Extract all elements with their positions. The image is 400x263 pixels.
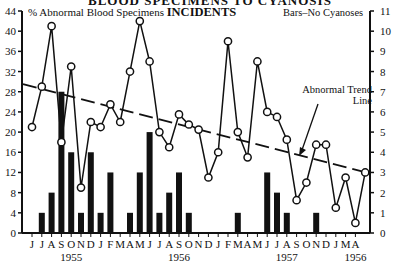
- data-point-marker: [185, 121, 192, 128]
- data-point-marker: [273, 113, 280, 120]
- data-point-marker: [293, 197, 300, 204]
- x-tick-label: S: [176, 238, 182, 250]
- right-tick-label: 3: [380, 166, 386, 178]
- data-point-marker: [332, 204, 339, 211]
- x-tick-label: N: [77, 238, 85, 250]
- x-tick-label: S: [58, 238, 64, 250]
- x-tick-label: D: [322, 238, 330, 250]
- data-point-marker: [303, 179, 310, 186]
- data-point-marker: [87, 118, 94, 125]
- x-tick-label: D: [87, 238, 95, 250]
- x-tick-label: A: [165, 238, 173, 250]
- left-tick-label: 36: [5, 45, 17, 57]
- left-tick-label: 8: [11, 187, 17, 199]
- data-point-marker: [136, 17, 143, 24]
- data-point-marker: [38, 83, 45, 90]
- right-tick-label: 5: [380, 126, 386, 138]
- x-tick-label: A: [283, 238, 291, 250]
- x-tick-label: O: [302, 238, 310, 250]
- left-tick-label: 40: [5, 25, 17, 37]
- x-tick-label: N: [195, 238, 203, 250]
- x-tick-label: S: [294, 238, 300, 250]
- data-point-marker: [97, 123, 104, 130]
- data-point-marker: [254, 58, 261, 65]
- x-tick-label: M: [135, 238, 145, 250]
- x-tick-label: J: [98, 238, 103, 250]
- year-label: 1955: [60, 251, 83, 263]
- x-tick-label: J: [157, 238, 162, 250]
- right-tick-label: 2: [380, 187, 386, 199]
- data-point-marker: [283, 136, 290, 143]
- data-point-marker: [117, 118, 124, 125]
- bar: [107, 172, 113, 233]
- data-point-marker: [28, 123, 35, 130]
- x-tick-label: A: [351, 238, 359, 250]
- bar: [98, 213, 104, 233]
- x-tick-label: J: [30, 238, 35, 250]
- data-point-marker: [195, 126, 202, 133]
- right-tick-label: 7: [380, 86, 386, 98]
- x-tick-label: J: [334, 238, 339, 250]
- bar: [313, 213, 319, 233]
- bar: [39, 213, 45, 233]
- x-tick-label: J: [216, 238, 221, 250]
- left-tick-label: 0: [11, 227, 17, 239]
- chart-canvas: 04812162024283236404401234567891011JJASO…: [0, 0, 400, 263]
- data-point-marker: [352, 219, 359, 226]
- left-tick-label: 20: [5, 126, 17, 138]
- bar: [49, 193, 55, 233]
- data-point-marker: [313, 141, 320, 148]
- bar: [88, 152, 94, 233]
- bar: [68, 152, 74, 233]
- year-label: 1957: [276, 251, 299, 263]
- data-point-marker: [126, 68, 133, 75]
- bar: [156, 213, 162, 233]
- left-tick-label: 16: [5, 146, 17, 158]
- bar: [78, 213, 84, 233]
- data-point-marker: [224, 38, 231, 45]
- right-tick-label: 8: [380, 66, 386, 78]
- left-tick-label: 12: [5, 166, 16, 178]
- x-tick-label: M: [233, 238, 243, 250]
- data-point-marker: [146, 58, 153, 65]
- data-point-marker: [156, 128, 163, 135]
- year-label: 1956: [344, 251, 367, 263]
- bar: [264, 172, 270, 233]
- x-tick-label: F: [107, 238, 113, 250]
- x-tick-label: D: [204, 238, 212, 250]
- bar: [235, 213, 241, 233]
- bar: [284, 213, 290, 233]
- bar: [137, 172, 143, 233]
- right-tick-label: 9: [380, 45, 386, 57]
- data-point-marker: [264, 108, 271, 115]
- right-tick-label: 4: [380, 146, 386, 158]
- left-tick-label: 44: [5, 5, 17, 17]
- year-label: 1956: [168, 251, 191, 263]
- left-tick-label: 24: [5, 106, 17, 118]
- x-tick-label: J: [40, 238, 45, 250]
- data-point-marker: [244, 154, 251, 161]
- bar: [186, 213, 192, 233]
- data-point-marker: [58, 139, 65, 146]
- data-point-marker: [362, 169, 369, 176]
- x-tick-label: A: [244, 238, 252, 250]
- data-point-marker: [48, 23, 55, 30]
- x-tick-label: A: [126, 238, 134, 250]
- data-point-marker: [234, 128, 241, 135]
- abnormal-specimens-line: [32, 21, 365, 223]
- x-tick-label: A: [48, 238, 56, 250]
- left-tick-label: 4: [11, 207, 17, 219]
- bar: [147, 132, 153, 233]
- data-point-marker: [322, 141, 329, 148]
- data-point-marker: [175, 111, 182, 118]
- data-point-marker: [342, 174, 349, 181]
- data-point-marker: [68, 63, 75, 70]
- bar: [127, 213, 133, 233]
- data-point-marker: [77, 184, 84, 191]
- left-tick-label: 32: [5, 66, 16, 78]
- x-tick-label: O: [67, 238, 75, 250]
- x-tick-label: J: [147, 238, 152, 250]
- x-tick-label: F: [225, 238, 231, 250]
- right-tick-label: 10: [380, 25, 392, 37]
- annotation-arrowhead: [299, 147, 306, 156]
